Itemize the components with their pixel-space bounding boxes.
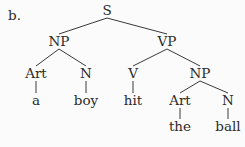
tree-node-hit: hit [124, 92, 143, 108]
tree-node-the: the [169, 118, 191, 134]
tree-node-s: S [102, 2, 111, 18]
tree-node-boy: boy [74, 92, 99, 108]
tree-edge-vp-v [133, 49, 167, 66]
tree-edge-np1-art1 [36, 49, 59, 66]
tree-edge-np1-n1 [59, 49, 86, 66]
tree-node-np1: NP [49, 33, 70, 49]
tree-node-a: a [32, 92, 40, 108]
tree-node-np2: NP [190, 65, 211, 81]
tree-edge-s-np1 [59, 18, 107, 34]
tree-node-art1: Art [24, 65, 47, 81]
tree-edge-s-vp [107, 18, 167, 34]
tree-node-ball: ball [215, 118, 240, 134]
tree-node-n1: N [80, 65, 92, 81]
tree-nodes: SNPVPArtNVNPaboyhitArtNtheball [24, 2, 240, 134]
syntax-tree: b. SNPVPArtNVNPaboyhitArtNtheball [0, 0, 245, 147]
tree-node-art2: Art [168, 92, 191, 108]
figure-label: b. [8, 7, 21, 23]
tree-node-vp: VP [157, 33, 177, 49]
tree-node-v: V [127, 65, 138, 81]
tree-edge-vp-np2 [167, 49, 200, 66]
tree-node-n2: N [222, 92, 234, 108]
